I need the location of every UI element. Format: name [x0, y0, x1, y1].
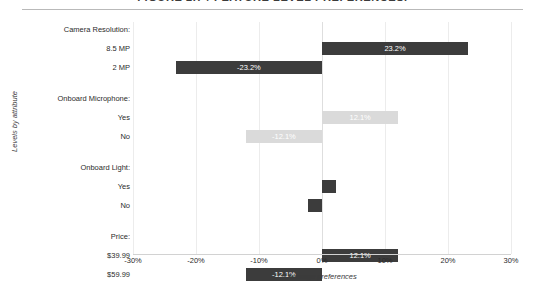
bar-row: -23.2%	[133, 58, 511, 77]
level-label: No	[0, 201, 130, 211]
bar[interactable]	[308, 199, 322, 212]
bar-value-label: -12.1%	[246, 131, 322, 142]
attribute-group-label: Onboard Microphone:	[0, 94, 130, 104]
bar-value-label: 23.2%	[322, 43, 468, 54]
x-tick-label: -30%	[103, 256, 163, 265]
level-label: No	[0, 132, 130, 142]
bar-row	[133, 177, 511, 196]
y-axis-category-labels: Camera Resolution:8.5 MP2 MPOnboard Micr…	[0, 22, 130, 254]
x-tick-label: 0%	[292, 256, 352, 265]
x-axis-line	[133, 254, 511, 255]
chart-title: FIGURE 2.7 / FEATURE LEVEL PREFERENCES.	[0, 0, 545, 3]
level-label: $59.99	[0, 270, 130, 280]
bar-row: -12.1%	[133, 127, 511, 146]
bar-row	[133, 196, 511, 215]
bar[interactable]	[322, 180, 336, 193]
bar-row: 23.2%	[133, 39, 511, 58]
level-label: Yes	[0, 182, 130, 192]
level-label: 8.5 MP	[0, 44, 130, 54]
x-tick-label: 10%	[355, 256, 415, 265]
level-label: Yes	[0, 113, 130, 123]
plot-area: 23.2%-23.2%12.1%-12.1%12.1%-12.1%	[133, 22, 511, 254]
bar-value-label: -23.2%	[176, 62, 322, 73]
x-tick-label: -20%	[166, 256, 226, 265]
gridline-30%	[511, 22, 512, 254]
x-tick-label: 30%	[481, 256, 541, 265]
attribute-group-label: Onboard Light:	[0, 163, 130, 173]
attribute-group-label: Camera Resolution:	[0, 25, 130, 35]
attribute-group-label: Price:	[0, 232, 130, 242]
title-divider	[22, 9, 523, 10]
bar-value-label: 12.1%	[322, 112, 398, 123]
x-axis-title: Average preferences	[133, 272, 511, 281]
bar-row: 12.1%	[133, 108, 511, 127]
level-label: 2 MP	[0, 63, 130, 73]
x-tick-label: 20%	[418, 256, 478, 265]
x-tick-label: -10%	[229, 256, 289, 265]
